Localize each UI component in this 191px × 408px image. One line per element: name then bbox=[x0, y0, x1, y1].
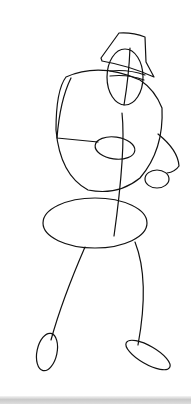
pelvis bbox=[43, 198, 147, 248]
figure-sketch bbox=[0, 0, 191, 408]
foot-right bbox=[122, 335, 174, 376]
leg-right bbox=[135, 242, 143, 345]
bottom-bar bbox=[0, 396, 191, 404]
hand-left bbox=[94, 134, 137, 161]
sketch-canvas bbox=[0, 0, 191, 408]
foot-left bbox=[33, 331, 60, 372]
leg-left bbox=[51, 247, 85, 340]
hand-right bbox=[145, 170, 169, 188]
